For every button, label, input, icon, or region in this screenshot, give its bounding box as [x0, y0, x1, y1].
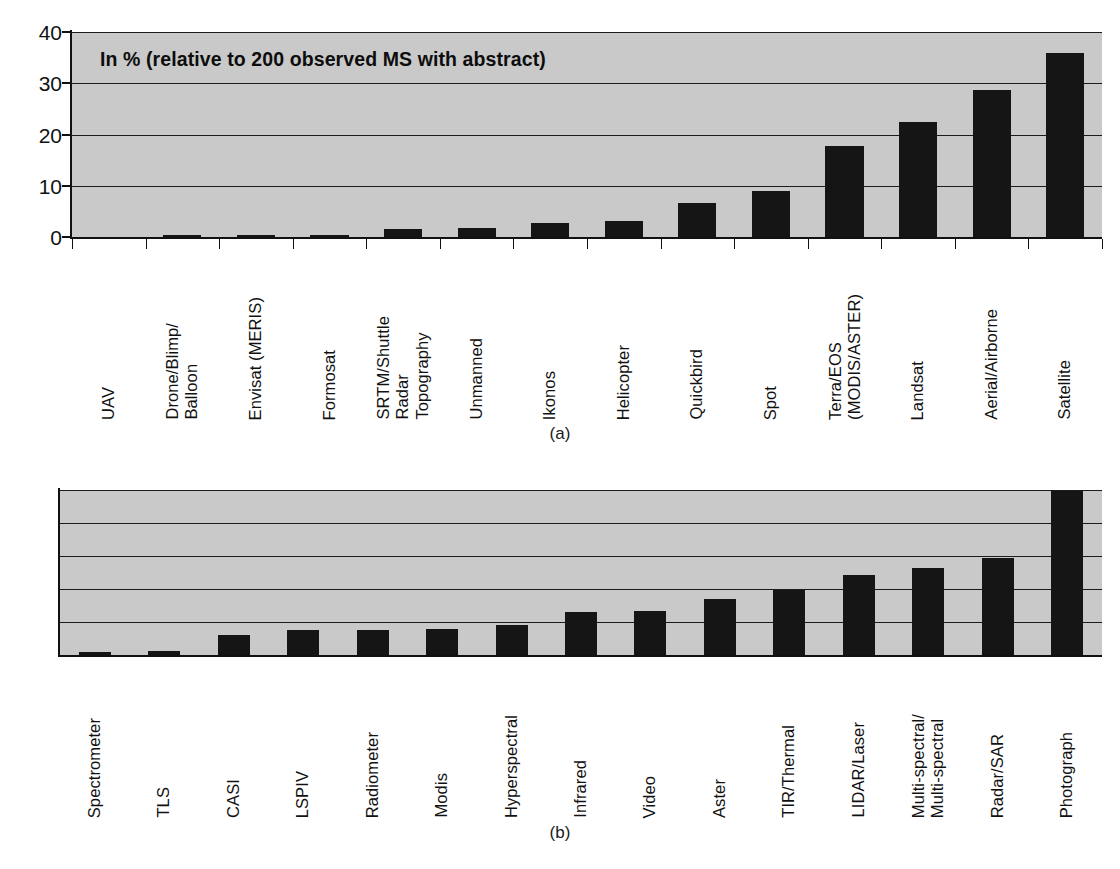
x-axis-label: Satellite — [1056, 360, 1075, 420]
bar — [912, 568, 944, 655]
y-axis-tick-label: 20 — [28, 124, 62, 145]
bar — [426, 629, 458, 655]
y-axis-tick-mark — [62, 82, 71, 84]
x-axis-label: Helicopter — [614, 345, 633, 420]
x-axis-label: Ikonos — [541, 371, 560, 420]
x-axis-label: Radiometer — [363, 732, 382, 818]
bar — [565, 612, 597, 655]
y-axis-tick-label: 40 — [28, 22, 62, 43]
x-axis-label: Photograph — [1058, 732, 1077, 818]
bar — [982, 558, 1014, 655]
bar — [605, 221, 643, 237]
x-axis-label: Hyperspectral — [502, 715, 521, 818]
bar — [752, 191, 790, 237]
bar — [531, 223, 569, 237]
x-axis-label: LIDAR/Laser — [849, 722, 868, 818]
x-axis-labels-b: SpectrometerTLSCASILSPIVRadiometerModisH… — [60, 666, 1102, 818]
x-axis-label: Aerial/Airborne — [982, 309, 1001, 420]
bar — [287, 630, 319, 655]
y-axis-tick-label: 30 — [28, 73, 62, 94]
y-axis-tick-label: 10 — [28, 175, 62, 196]
y-axis-tick-mark — [62, 134, 71, 136]
x-axis-label: Aster — [710, 779, 729, 818]
bar — [704, 599, 736, 655]
bar — [1046, 53, 1084, 238]
bar — [458, 228, 496, 237]
x-axis-label: Unmanned — [467, 338, 486, 420]
bar — [357, 630, 389, 655]
plot-area-a: In % (relative to 200 observed MS with a… — [72, 32, 1102, 237]
x-axis-label: Spectrometer — [85, 718, 104, 818]
chart-panel-a: In % (relative to 200 observed MS with a… — [0, 0, 1120, 445]
x-axis-label: LSPIV — [294, 771, 313, 818]
x-axis-label: Infrared — [571, 760, 590, 818]
bar — [843, 575, 875, 655]
x-axis-a — [70, 237, 1102, 239]
bar — [899, 122, 937, 237]
x-axis-label: Envisat (MERIS) — [246, 297, 265, 420]
chart-panel-b: 0510152025 SpectrometerTLSCASILSPIVRadio… — [0, 445, 1120, 869]
bar — [973, 90, 1011, 237]
bar — [496, 625, 528, 655]
x-axis-label: SRTM/Shuttle Radar Topography — [374, 316, 431, 420]
x-axis-label: Video — [641, 776, 660, 818]
y-axis-b — [58, 488, 60, 657]
x-axis-label: CASI — [224, 779, 243, 818]
x-axis-label: Radar/SAR — [988, 734, 1007, 818]
bar — [773, 590, 805, 655]
panel-b-caption: (b) — [0, 823, 1120, 843]
x-axis-labels-a: UAVDrone/Blimp/ BalloonEnvisat (MERIS)Fo… — [72, 248, 1102, 420]
x-axis-label: Drone/Blimp/ Balloon — [163, 323, 201, 420]
bar — [218, 635, 250, 655]
panel-a-caption: (a) — [0, 424, 1120, 444]
x-axis-label: Formosat — [320, 350, 339, 420]
y-axis-tick-mark — [62, 185, 71, 187]
x-axis-label: TIR/Thermal — [780, 725, 799, 818]
bar-series-b — [60, 490, 1102, 655]
x-axis-label: Multi-spectral/ Multi-spectral — [909, 714, 947, 818]
x-axis-label: Spot — [761, 386, 780, 420]
bar — [678, 203, 716, 237]
figure-root: In % (relative to 200 observed MS with a… — [0, 0, 1120, 869]
plot-area-b — [60, 490, 1102, 655]
x-axis-label: Quickbird — [688, 349, 707, 420]
x-axis-b — [58, 655, 1102, 657]
y-axis-tick-mark — [62, 236, 71, 238]
bar — [825, 146, 863, 237]
bar — [1051, 491, 1083, 655]
y-axis-tick-mark — [62, 31, 71, 33]
x-axis-label: TLS — [155, 787, 174, 818]
y-axis-tick-label: 0 — [28, 227, 62, 248]
x-axis-label: UAV — [99, 387, 118, 420]
x-axis-label: Terra/EOS (MODIS/ASTER) — [825, 294, 863, 420]
bar — [634, 611, 666, 655]
x-axis-tick-mark — [1102, 239, 1103, 249]
bar — [384, 229, 422, 237]
x-axis-label: Landsat — [909, 361, 928, 420]
x-axis-label: Modis — [433, 773, 452, 818]
chart-title-a: In % (relative to 200 observed MS with a… — [100, 48, 546, 71]
